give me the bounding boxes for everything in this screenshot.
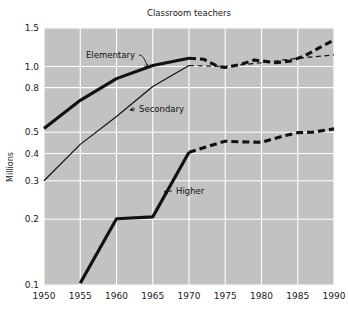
x-tick-1985: 1985 <box>286 291 309 301</box>
annotation-label-higher: Higher <box>176 186 205 196</box>
x-tick-1950: 1950 <box>33 291 56 301</box>
x-tick-1980: 1980 <box>250 291 273 301</box>
y-tick-0.3: 0.3 <box>25 176 39 186</box>
chart-title: Classroom teachers <box>147 8 232 18</box>
x-tick-1965: 1965 <box>141 291 164 301</box>
y-tick-1.0: 1.0 <box>25 62 40 72</box>
y-tick-0.8: 0.8 <box>25 83 40 93</box>
classroom-teachers-line-chart: 1.51.00.80.50.40.30.20.1 195019551960196… <box>0 0 348 313</box>
y-tick-0.1: 0.1 <box>25 280 39 290</box>
x-tick-1990: 1990 <box>323 291 346 301</box>
x-tick-1970: 1970 <box>178 291 201 301</box>
y-axis-label: Millions <box>6 152 15 182</box>
x-tick-1960: 1960 <box>105 291 128 301</box>
annotation-label-secondary: Secondary <box>139 104 184 114</box>
y-tick-0.4: 0.4 <box>25 149 40 159</box>
chart-container: 1.51.00.80.50.40.30.20.1 195019551960196… <box>0 0 348 313</box>
x-tick-1975: 1975 <box>214 291 237 301</box>
y-tick-1.5: 1.5 <box>25 23 39 33</box>
x-axis-tick-labels: 195019551960196519701975198019851990 <box>33 291 346 301</box>
y-tick-0.5: 0.5 <box>25 127 39 137</box>
x-tick-1955: 1955 <box>69 291 92 301</box>
annotation-label-elementary: Elementary <box>86 50 135 60</box>
y-tick-0.2: 0.2 <box>25 214 39 224</box>
